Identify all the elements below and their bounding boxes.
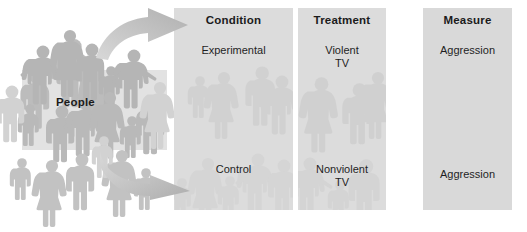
cell-experimental-line-1: Experimental xyxy=(174,44,293,57)
column-header-treatment: Treatment xyxy=(298,14,386,26)
cell-aggression-bottom: Aggression xyxy=(423,168,512,181)
column-header-measure: Measure xyxy=(423,14,512,26)
figure-canvas: People xyxy=(0,0,527,232)
cell-aggression-bottom-line-1: Aggression xyxy=(423,168,512,181)
cell-nonviolent-tv: Nonviolent TV xyxy=(298,163,386,188)
cell-nonviolent-tv-line-1: Nonviolent xyxy=(298,163,386,176)
arrow-to-control xyxy=(100,152,192,200)
cell-aggression-top-line-1: Aggression xyxy=(423,44,512,57)
column-header-condition: Condition xyxy=(174,14,293,26)
cell-control-line-1: Control xyxy=(174,163,293,176)
cell-experimental: Experimental xyxy=(174,44,293,57)
column-measure: Measure Aggression Aggression xyxy=(423,8,512,210)
cell-violent-tv: Violent TV xyxy=(298,44,386,69)
cell-violent-tv-line-1: Violent xyxy=(298,44,386,57)
cell-nonviolent-tv-line-2: TV xyxy=(298,176,386,189)
cell-violent-tv-line-2: TV xyxy=(298,57,386,70)
cell-control: Control xyxy=(174,163,293,176)
people-label: People xyxy=(56,96,95,108)
column-treatment: Treatment Violent TV Nonviolent TV xyxy=(298,8,386,210)
cell-aggression-top: Aggression xyxy=(423,44,512,57)
